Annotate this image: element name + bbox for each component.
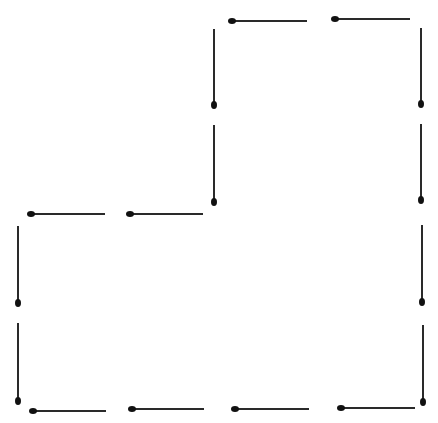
matchstick-body: [232, 20, 307, 22]
matchstick-body: [31, 213, 105, 215]
match-head-icon: [211, 101, 217, 109]
match-head-icon: [211, 198, 217, 206]
matchstick-body: [335, 18, 410, 20]
match-head-icon: [231, 406, 239, 412]
match-head-icon: [128, 406, 136, 412]
match-head-icon: [29, 408, 37, 414]
matchstick-body: [421, 225, 423, 302]
matchstick-body: [420, 28, 422, 104]
matchstick-body: [213, 29, 215, 105]
match-head-icon: [418, 196, 424, 204]
matchstick-body: [132, 408, 204, 410]
matchstick-diagram: [0, 0, 438, 423]
match-head-icon: [126, 211, 134, 217]
matchstick-body: [33, 410, 106, 412]
matchstick-body: [17, 226, 19, 303]
match-head-icon: [419, 298, 425, 306]
match-head-icon: [331, 16, 339, 22]
matchstick-body: [420, 124, 422, 200]
matchstick-body: [422, 325, 424, 402]
matchstick-body: [341, 407, 415, 409]
match-head-icon: [418, 100, 424, 108]
match-head-icon: [15, 397, 21, 405]
match-head-icon: [420, 398, 426, 406]
matchstick-body: [17, 323, 19, 401]
matchstick-body: [130, 213, 203, 215]
matchstick-body: [213, 125, 215, 202]
match-head-icon: [15, 299, 21, 307]
match-head-icon: [228, 18, 236, 24]
match-head-icon: [337, 405, 345, 411]
matchstick-body: [235, 408, 309, 410]
match-head-icon: [27, 211, 35, 217]
